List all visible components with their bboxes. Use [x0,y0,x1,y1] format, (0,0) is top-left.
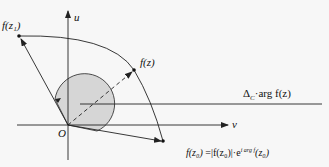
vector-f-z0 [68,125,161,141]
label-f-z: f(z) [140,57,155,68]
complex-mapping-diagram: f(z₁) f(z) u v O ΔC·arg f(z) f(z₀) =|f(z… [0,0,329,167]
diagram-graphics [0,0,329,167]
delta-rest: ·arg f(z) [255,87,291,99]
label-origin: O [58,128,66,139]
label-f-z1: f(z₁) [2,20,21,31]
argument-sector [55,74,115,131]
point-f-z0 [161,139,165,143]
label-polar-form: f(z₀) =|f(z₀)|·ei arg f(z₀) [186,147,269,158]
polar-tail: (z₀) [255,147,269,158]
vector-f-z1 [21,39,68,125]
polar-eq: =|f(z₀)|·e [203,147,241,158]
label-v-axis: v [232,119,237,130]
polar-lhs: f(z₀) [186,147,203,158]
polar-exponent: i arg f [241,147,255,153]
point-f-z [132,68,136,72]
label-delta-arg: ΔC·arg f(z) [243,88,291,102]
label-u-axis: u [74,12,80,23]
point-f-z1 [17,34,21,38]
